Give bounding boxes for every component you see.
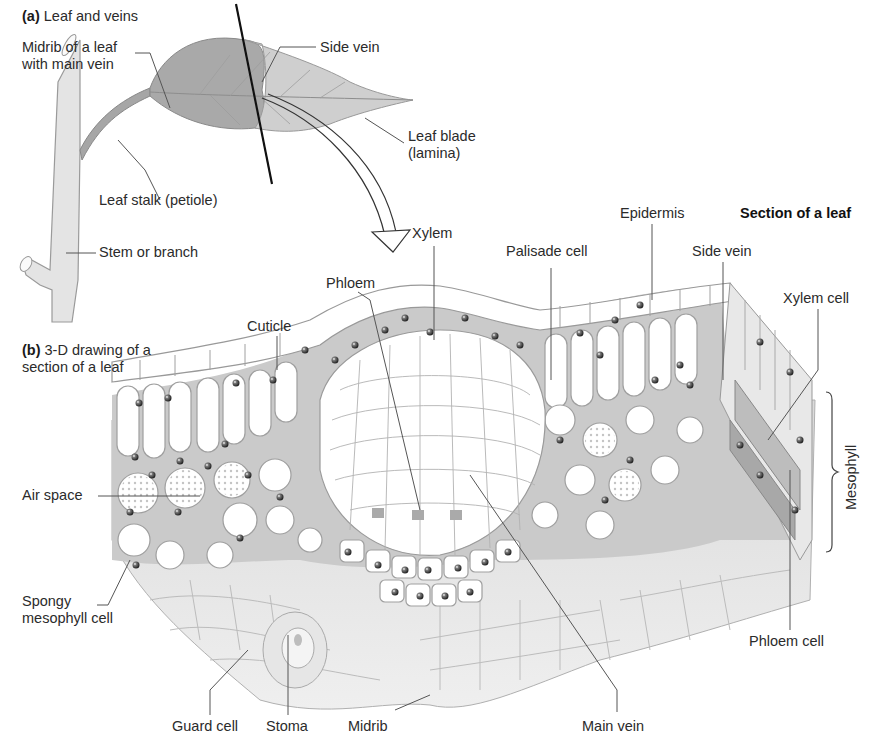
part-b-title-line2: section of a leaf [22,359,151,376]
label-mesophyll: Mesophyll [843,445,859,510]
leaf-diagram: (a) Leaf and veins Midrib of a leaf with… [0,0,879,743]
label-guard-cell: Guard cell [172,718,238,735]
label-main-vein: Main vein [582,718,644,735]
leaf-section-icon [112,283,838,709]
part-a-heading: (a) Leaf and veins [22,8,138,25]
label-side-vein-a: Side vein [320,39,380,56]
label-phloem: Phloem [326,275,375,292]
label-air-space: Air space [22,487,82,504]
part-b-heading: (b) 3-D drawing of a section of a leaf [22,342,151,376]
part-a-title: Leaf and veins [44,8,138,24]
stem-icon [18,33,80,322]
label-side-vein-b: Side vein [692,243,752,260]
label-leaf-blade-line2: (lamina) [408,145,476,162]
label-midrib-line1: Midrib of a leaf [22,39,117,56]
label-xylem: Xylem [412,225,452,242]
label-xylem-cell: Xylem cell [783,290,849,307]
label-midrib-line2: with main vein [22,56,117,73]
label-spongy-line2: mesophyll cell [22,610,113,627]
label-leaf-blade: Leaf blade (lamina) [408,128,476,162]
label-palisade-cell: Palisade cell [506,243,587,260]
part-a-letter: (a) [22,8,40,24]
label-phloem-cell: Phloem cell [749,633,824,650]
part-b-title-line1: 3-D drawing of a [45,342,151,358]
label-midrib-leaf: Midrib of a leaf with main vein [22,39,117,73]
label-epidermis: Epidermis [620,205,684,222]
label-stem: Stem or branch [99,244,198,261]
label-stoma: Stoma [266,718,308,735]
label-leaf-stalk: Leaf stalk (petiole) [99,192,217,209]
label-cuticle: Cuticle [247,318,291,335]
label-leaf-blade-line1: Leaf blade [408,128,476,145]
section-title: Section of a leaf [740,205,851,222]
label-spongy-mesophyll: Spongy mesophyll cell [22,593,113,627]
part-b-letter: (b) [22,342,41,358]
label-midrib: Midrib [348,718,387,735]
label-spongy-line1: Spongy [22,593,113,610]
